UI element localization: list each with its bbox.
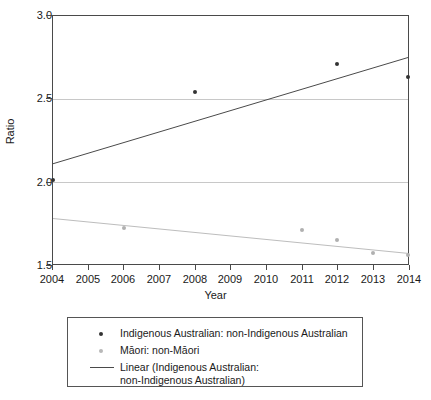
- y-axis: 3.0 2.5 2.0 1.5 Ratio: [0, 0, 52, 400]
- x-tick-mark: [52, 265, 53, 270]
- x-tick-mark: [230, 265, 231, 270]
- legend-item-linear-indigenous: Linear (Indigenous Australian: non-Indig…: [68, 360, 362, 390]
- x-tick-label: 2010: [246, 274, 286, 285]
- x-tick-mark: [373, 265, 374, 270]
- data-point: [406, 75, 410, 79]
- data-point: [300, 228, 304, 232]
- chart-figure: 3.0 2.5 2.0 1.5 Ratio: [0, 0, 431, 400]
- x-tick-mark: [337, 265, 338, 270]
- plot-area: [52, 15, 409, 265]
- y-axis-title: Ratio: [5, 109, 16, 155]
- legend-item-maori: Māori: non-Māori: [68, 343, 362, 358]
- x-tick-label: 2005: [68, 274, 108, 285]
- x-axis-title: Year: [0, 290, 431, 301]
- legend-marker-line-icon: [90, 360, 114, 375]
- x-tick-label: 2004: [32, 274, 72, 285]
- legend-item-indigenous: Indigenous Australian: non-Indigenous Au…: [68, 326, 362, 341]
- x-tick-label: 2012: [317, 274, 357, 285]
- trendline-indigenous: [53, 58, 408, 164]
- x-tick-mark: [195, 265, 196, 270]
- legend-label: Indigenous Australian: non-Indigenous Au…: [120, 326, 348, 341]
- x-tick-label: 2008: [175, 274, 215, 285]
- chart-legend: Indigenous Australian: non-Indigenous Au…: [67, 317, 363, 387]
- trendline-maori: [53, 219, 408, 254]
- x-tick-mark: [302, 265, 303, 270]
- legend-marker-dot-light-icon: [90, 343, 114, 358]
- x-tick-label: 2013: [353, 274, 393, 285]
- x-tick-label: 2009: [210, 274, 250, 285]
- data-point: [406, 253, 410, 257]
- legend-marker-dot-dark-icon: [90, 326, 114, 341]
- data-point: [371, 251, 375, 255]
- x-tick-label: 2014: [389, 274, 429, 285]
- x-tick-mark: [123, 265, 124, 270]
- x-tick-mark: [159, 265, 160, 270]
- x-tick-label: 2007: [139, 274, 179, 285]
- x-tick-mark: [88, 265, 89, 270]
- x-axis: 2004 2005 2006 2007 2008 2009 2010 2011 …: [0, 265, 431, 305]
- x-tick-mark: [409, 265, 410, 270]
- trendlines-layer: [53, 16, 409, 265]
- legend-label-continued: non-Indigenous Australian): [120, 373, 245, 388]
- x-tick-mark: [266, 265, 267, 270]
- legend-label: Māori: non-Māori: [120, 343, 199, 358]
- x-tick-label: 2011: [282, 274, 322, 285]
- x-tick-label: 2006: [103, 274, 143, 285]
